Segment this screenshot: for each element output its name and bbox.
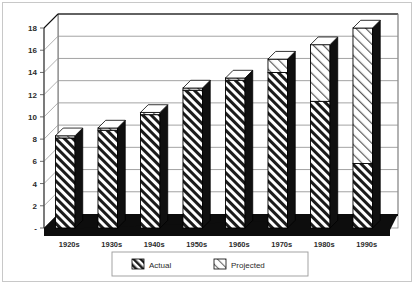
y-tick-label: 18 [28, 24, 37, 33]
bar-column [183, 80, 210, 228]
y-tick-label: 16 [28, 46, 37, 55]
bar-column [225, 70, 252, 228]
y-tick-label: 14 [28, 68, 37, 77]
bar-column [140, 105, 167, 228]
y-tick-label: 4 [33, 180, 38, 189]
legend-item: Actual [132, 259, 171, 270]
y-tick-label: 12 [28, 91, 37, 100]
bar-column [353, 20, 380, 228]
y-tick-label: 6 [33, 157, 38, 166]
plot-area [44, 14, 398, 228]
y-tick-label: 2 [33, 202, 38, 211]
x-category-label: 1990s [356, 240, 377, 249]
bar-column [55, 128, 82, 228]
x-category-label: 1920s [59, 240, 80, 249]
x-category-label: 1970s [271, 240, 292, 249]
x-category-label: 1950s [186, 240, 207, 249]
legend-label: Actual [149, 261, 171, 270]
bar-column [268, 51, 295, 228]
y-tick-label: 10 [28, 113, 37, 122]
x-category-label: 1930s [101, 240, 122, 249]
y-tick-label: 8 [33, 135, 38, 144]
bar-column [310, 37, 337, 228]
chart-canvas: -24681012141618 1920s1930s1940s1950s1960… [0, 0, 414, 284]
chart-floor [44, 214, 398, 236]
x-category-label: 1940s [144, 240, 165, 249]
legend-item: Projected [214, 259, 265, 270]
bar-column [98, 120, 125, 228]
x-category-label: 1980s [314, 240, 335, 249]
x-category-label: 1960s [229, 240, 250, 249]
y-tick-label: - [34, 224, 37, 233]
bar-chart: -24681012141618 1920s1930s1940s1950s1960… [0, 0, 414, 284]
legend: ActualProjected [112, 252, 308, 276]
legend-label: Projected [231, 261, 265, 270]
